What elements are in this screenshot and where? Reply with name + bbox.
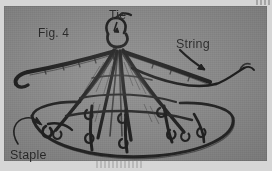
figure-number-label: Fig. 4 xyxy=(38,26,69,40)
label-tie: Tie xyxy=(109,8,127,22)
label-string: String xyxy=(176,37,210,51)
label-staple: Staple xyxy=(10,148,47,162)
plate-footer-smudge xyxy=(96,161,142,168)
string-leader-arrow xyxy=(180,50,205,70)
corner-registration-mark xyxy=(256,0,270,5)
figure-page: Fig. 4 Tie String Staple xyxy=(0,0,272,171)
figure-plate: Fig. 4 Tie String Staple xyxy=(4,6,267,161)
tie-leader-arrow xyxy=(114,22,119,32)
